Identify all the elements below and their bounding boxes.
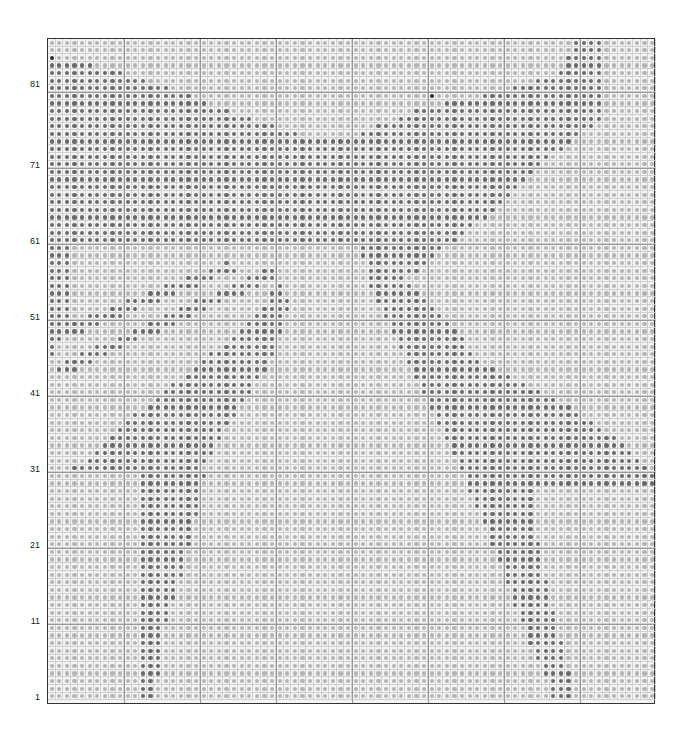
row-label: 71 xyxy=(0,160,40,170)
major-grid-line xyxy=(428,39,429,703)
pattern-chart xyxy=(47,38,655,704)
major-grid-line xyxy=(504,39,505,703)
row-label: 31 xyxy=(0,464,40,474)
major-grid-line xyxy=(276,39,277,703)
major-grid-line xyxy=(48,472,654,473)
major-grid-line xyxy=(48,320,654,321)
major-grid-line xyxy=(48,396,654,397)
major-grid-line xyxy=(48,168,654,169)
major-grid-line xyxy=(124,39,125,703)
row-label: 41 xyxy=(0,388,40,398)
row-label: 21 xyxy=(0,540,40,550)
major-grid-line xyxy=(580,39,581,703)
pattern-grid xyxy=(48,39,654,703)
row-label: 51 xyxy=(0,312,40,322)
row-label: 81 xyxy=(0,79,40,89)
major-grid-line xyxy=(48,92,654,93)
major-grid-line xyxy=(352,39,353,703)
major-grid-line xyxy=(200,39,201,703)
row-label: 1 xyxy=(0,692,40,702)
row-label: 11 xyxy=(0,616,40,626)
major-grid-line xyxy=(48,624,654,625)
major-grid-line xyxy=(48,548,654,549)
major-grid-line xyxy=(48,244,654,245)
row-label: 61 xyxy=(0,236,40,246)
